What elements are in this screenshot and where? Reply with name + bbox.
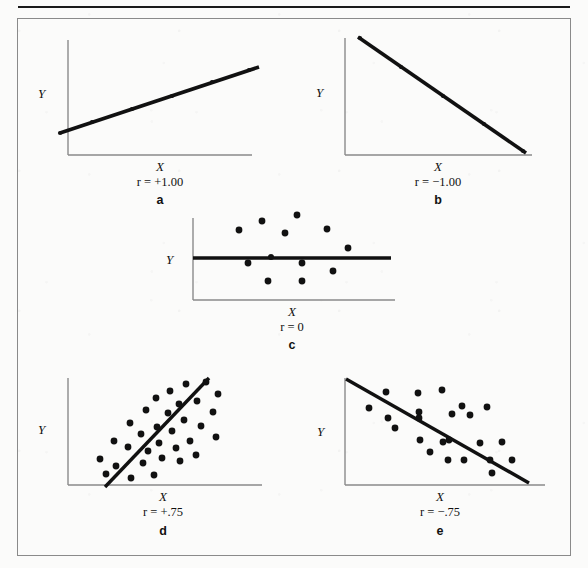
panel-e-fit-line: [346, 379, 529, 483]
panel-b-x-axis-label: X: [434, 160, 442, 173]
panel-c-plot: [0, 205, 588, 305]
panel-e-plot: [0, 370, 588, 495]
panel-c: Y X r = 0 c: [0, 205, 588, 305]
panel-c-x-axis-label: X: [288, 305, 296, 318]
panel-c-r-caption: r = 0: [280, 321, 304, 334]
panel-d-letter: d: [159, 525, 167, 538]
panel-c-letter: c: [289, 339, 296, 352]
panel-e-y-axis-label: Y: [317, 425, 324, 438]
panel-b: Y X r = −1.00 b: [0, 0, 588, 200]
panel-e-letter: e: [437, 525, 444, 538]
panel-b-y-axis-label: Y: [316, 86, 323, 99]
panel-c-y-axis-label: Y: [166, 253, 173, 266]
panel-b-r-caption: r = −1.00: [415, 176, 461, 189]
correlation-figure: Y X r = +1.00 a Y X r = −1.00 b: [0, 0, 588, 568]
panel-c-points: [236, 212, 352, 285]
panel-e-r-caption: r = −.75: [420, 506, 460, 519]
panel-e: Y X r = −.75 e: [0, 370, 588, 495]
panel-e-x-axis-label: X: [436, 490, 444, 503]
panel-d-r-caption: r = +.75: [143, 506, 183, 519]
panel-b-plot: [0, 0, 588, 200]
